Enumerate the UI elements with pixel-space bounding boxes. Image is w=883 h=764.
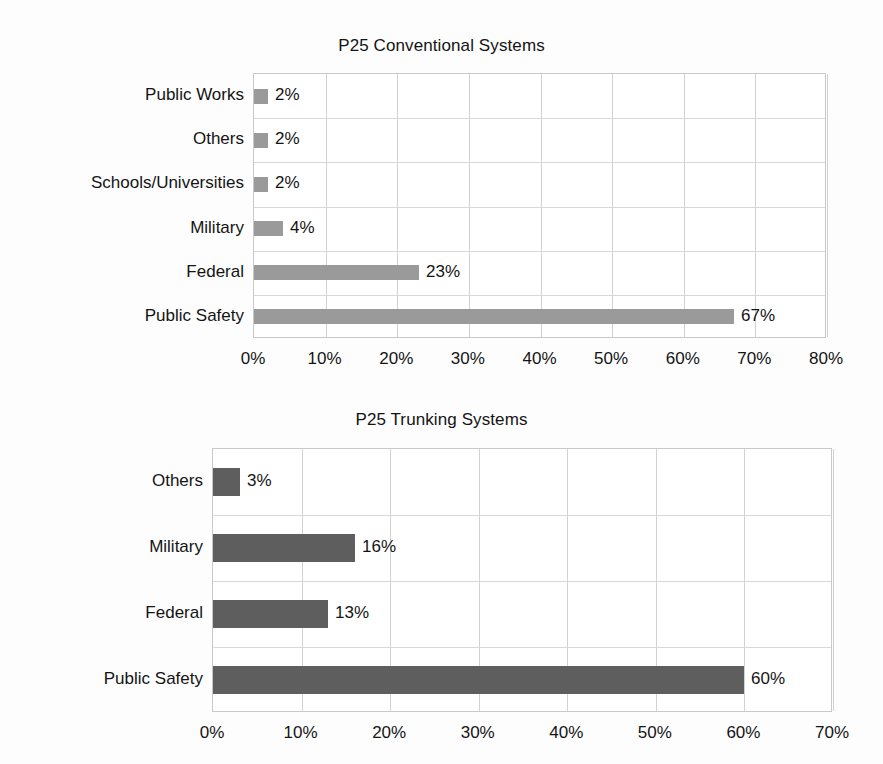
gridline-vertical [469,74,470,337]
gridline-vertical [612,74,613,337]
x-axis-tick-label: 40% [522,349,556,369]
x-axis-tick-label: 50% [638,723,672,743]
x-axis-tick-label: 10% [284,723,318,743]
x-axis-tick-label: 70% [815,723,849,743]
bar [254,177,268,192]
category-label: Public Safety [145,306,244,326]
plot-area [212,448,832,712]
gridline-horizontal [213,647,831,648]
category-label: Federal [186,262,244,282]
x-axis-tick-label: 0% [241,349,266,369]
x-axis-tick-label: 40% [549,723,583,743]
gridline-vertical [326,74,327,337]
gridline-horizontal [254,251,825,252]
value-label: 23% [426,262,460,282]
gridline-horizontal [254,295,825,296]
category-label: Military [190,218,244,238]
x-axis-tick-label: 80% [809,349,843,369]
value-label: 60% [751,669,785,689]
x-axis-tick-label: 30% [451,349,485,369]
figure-page: { "figure": { "background_color": "#fdfd… [0,0,883,764]
value-label: 3% [247,471,272,491]
gridline-horizontal [254,118,825,119]
bar [254,265,419,280]
x-axis-tick-label: 20% [372,723,406,743]
category-label: Military [149,537,203,557]
value-label: 16% [362,537,396,557]
gridline-vertical [541,74,542,337]
x-axis-tick-label: 10% [308,349,342,369]
gridline-horizontal [213,515,831,516]
x-axis-tick-label: 30% [461,723,495,743]
x-axis-tick-label: 60% [666,349,700,369]
value-label: 2% [275,129,300,149]
gridline-vertical [833,449,834,711]
x-axis-tick-label: 70% [737,349,771,369]
x-axis-tick-label: 0% [200,723,225,743]
bar [213,600,328,628]
gridline-vertical [397,74,398,337]
value-label: 67% [741,306,775,326]
category-label: Others [152,471,203,491]
bar [213,666,744,694]
category-label: Others [193,129,244,149]
category-label: Federal [145,603,203,623]
category-label: Public Works [145,85,244,105]
bar [213,534,355,562]
value-label: 2% [275,173,300,193]
x-axis-tick-label: 20% [379,349,413,369]
value-label: 4% [290,218,315,238]
category-label: Public Safety [104,669,203,689]
value-label: 2% [275,85,300,105]
x-axis-tick-label: 60% [726,723,760,743]
gridline-vertical [755,74,756,337]
gridline-horizontal [254,207,825,208]
gridline-horizontal [254,162,825,163]
category-label: Schools/Universities [91,173,244,193]
gridline-horizontal [213,581,831,582]
gridline-vertical [684,74,685,337]
bar [213,468,240,496]
chart-title: P25 Conventional Systems [0,36,883,56]
bar [254,221,283,236]
value-label: 13% [335,603,369,623]
x-axis-tick-label: 50% [594,349,628,369]
bar [254,133,268,148]
gridline-vertical [827,74,828,337]
bar [254,89,268,104]
gridline-vertical [744,449,745,711]
bar [254,309,734,324]
chart-title: P25 Trunking Systems [0,410,883,430]
plot-area [253,73,826,338]
